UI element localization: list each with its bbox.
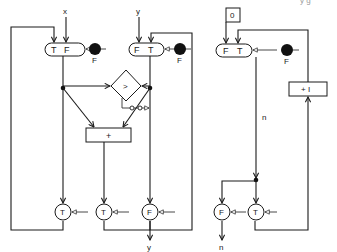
output-n-label: n xyxy=(219,243,223,252)
gate-t-sum-label: T xyxy=(101,208,106,217)
merge-node-right: F T xyxy=(129,43,164,56)
gate-t-counter-label: T xyxy=(253,208,258,217)
merge-left-port-t: T xyxy=(51,45,57,55)
counter-merge-port-t: T xyxy=(237,46,243,56)
merge-right-port-f: F xyxy=(134,45,140,55)
adder-label: + xyxy=(106,131,111,141)
merge-left-port-f: F xyxy=(64,45,70,55)
initial-value-label: 0 xyxy=(230,11,235,20)
gate-f-counter-label: F xyxy=(219,208,224,217)
x-to-adder xyxy=(63,88,94,127)
gate-t-x-label: T xyxy=(60,208,65,217)
gate-f-counter: F xyxy=(214,204,230,220)
token-right-label: F xyxy=(177,56,182,65)
merge-right-port-t: T xyxy=(148,45,154,55)
loop-x-feedback xyxy=(11,27,63,230)
token-icon-left xyxy=(89,43,101,55)
sum-feedback xyxy=(104,221,150,230)
counter-to-f-gate xyxy=(222,181,256,203)
increment-label: + I xyxy=(301,85,310,94)
token-left-label: F xyxy=(92,56,97,65)
edge-label-n: n xyxy=(262,113,266,122)
inverter-chain-icon xyxy=(130,106,149,110)
gate-t-x: T xyxy=(55,204,71,220)
merge-node-left: T F xyxy=(45,43,85,56)
gate-t-sum: T xyxy=(96,204,112,220)
increment-node: + I xyxy=(289,82,327,96)
token-counter-label: F xyxy=(284,57,289,66)
token-icon-counter xyxy=(281,44,293,56)
comparator-label: > xyxy=(123,82,128,91)
counter-merge-port-f: F xyxy=(223,46,229,56)
comparator-node: > xyxy=(111,70,141,101)
dataflow-diagram: y g x y T F F F T F > xyxy=(0,0,337,252)
gate-f-y-label: F xyxy=(147,208,152,217)
input-x-label: x xyxy=(63,7,67,16)
gate-f-y: F xyxy=(142,204,158,220)
merge-node-counter: F T xyxy=(216,44,252,57)
adder-node: + xyxy=(86,128,131,142)
caption-fragment: y g xyxy=(300,0,311,5)
loop-y-feedback xyxy=(150,33,192,230)
input-y-label: y xyxy=(136,7,140,16)
gate-t-counter: T xyxy=(248,204,264,220)
initial-value-box: 0 xyxy=(226,8,240,22)
output-y-label: y xyxy=(147,243,151,252)
token-icon-right xyxy=(174,43,186,55)
